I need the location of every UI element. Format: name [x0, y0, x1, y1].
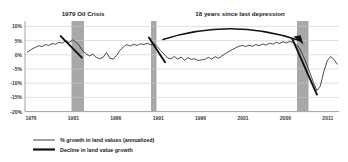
y-tick-label: 5% [15, 38, 23, 44]
x-tick-label: 2011 [322, 115, 333, 121]
x-tick-label: 1986 [110, 115, 121, 121]
chart-background [0, 0, 348, 162]
legend-item-growth: % growth in land values (annualized) [60, 137, 155, 143]
x-tick-label: 2006 [280, 115, 291, 121]
x-tick-label: 1996 [195, 115, 206, 121]
oil-crisis-label: 1979 Oil Crisis [62, 10, 105, 17]
y-tick-label: 10% [12, 23, 23, 29]
y-tick-label: -15% [10, 94, 22, 100]
x-tick-label: 2001 [237, 115, 248, 121]
y-tick-label: -5% [13, 66, 22, 72]
legend-item-decline: Decline in land value growth [60, 147, 133, 153]
y-tick-label: -10% [10, 80, 22, 86]
y-tick-label: -20% [10, 109, 22, 115]
depression-gap-label: 18 years since last depression [195, 10, 285, 17]
x-tick-label: 1976 [25, 115, 36, 121]
y-tick-label: 0% [15, 52, 23, 58]
land-value-growth-chart: 10% 5% 0% -5% -10% -15% -20% 1976 1981 1… [0, 0, 348, 162]
x-tick-label: 1981 [68, 115, 79, 121]
x-tick-label: 1991 [153, 115, 164, 121]
chart-svg: 10% 5% 0% -5% -10% -15% -20% 1976 1981 1… [0, 0, 348, 162]
